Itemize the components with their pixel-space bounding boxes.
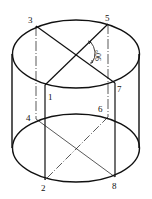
point-label-2: 2 <box>41 183 46 193</box>
bottom-diagonal-6-2 <box>45 117 108 180</box>
top-ellipse <box>13 20 140 88</box>
point-label-3: 3 <box>28 15 33 25</box>
point-label-6: 6 <box>98 104 103 114</box>
point-label-5: 5 <box>105 13 110 23</box>
point-label-8: 8 <box>112 181 117 191</box>
top-diagonal-3-7 <box>36 26 115 83</box>
cylinder-diagram: 3 5 7 1 6 4 2 8 90° <box>0 0 152 199</box>
bottom-diagonal-4-8 <box>36 119 115 177</box>
point-label-4: 4 <box>26 113 31 123</box>
angle-label: 90° <box>94 50 103 61</box>
point-label-1: 1 <box>48 92 53 102</box>
angle-arrow-bottom <box>90 60 92 63</box>
point-label-7: 7 <box>117 84 122 94</box>
